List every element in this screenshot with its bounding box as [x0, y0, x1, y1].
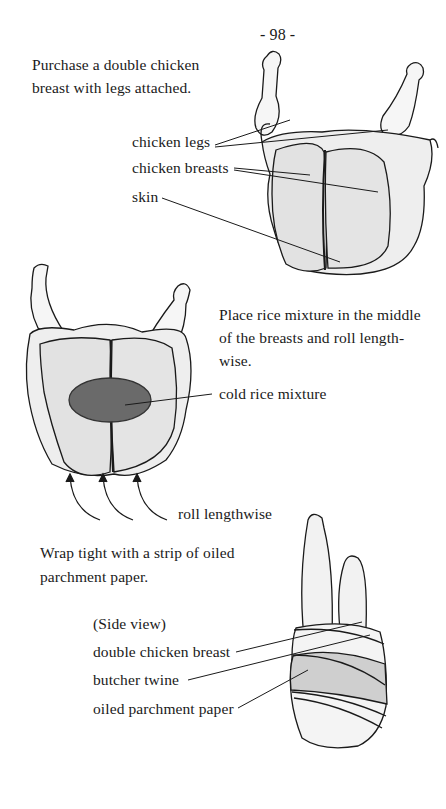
step3-instruction-line2: parchment paper.: [40, 566, 148, 588]
label-chicken-breasts: chicken breasts: [132, 157, 229, 179]
label-butcher-twine: butcher twine: [93, 669, 179, 691]
label-double-chicken-breast: double chicken breast: [93, 641, 230, 663]
label-cold-rice-mixture: cold rice mixture: [219, 383, 327, 405]
label-roll-lengthwise: roll lengthwise: [178, 503, 272, 525]
figure-rolled-side-view: [290, 514, 387, 747]
page-number: - 98 -: [260, 24, 295, 46]
label-chicken-legs: chicken legs: [132, 131, 210, 153]
label-side-view: (Side view): [93, 613, 166, 635]
step2-instruction-line1: Place rice mixture in the middle: [219, 304, 421, 326]
roll-arrows-icon: [66, 474, 167, 520]
label-skin: skin: [132, 186, 158, 208]
step2-instruction-line2: of the breasts and roll length-: [219, 327, 404, 349]
label-oiled-parchment-paper: oiled parchment paper: [93, 698, 234, 720]
step2-instruction-line3: wise.: [219, 350, 252, 372]
step1-instruction-line2: breast with legs attached.: [32, 77, 191, 99]
step3-instruction-line1: Wrap tight with a strip of oiled: [40, 542, 235, 564]
figure-rice-in-breast: [26, 264, 191, 475]
step1-instruction-line1: Purchase a double chicken: [32, 54, 199, 76]
